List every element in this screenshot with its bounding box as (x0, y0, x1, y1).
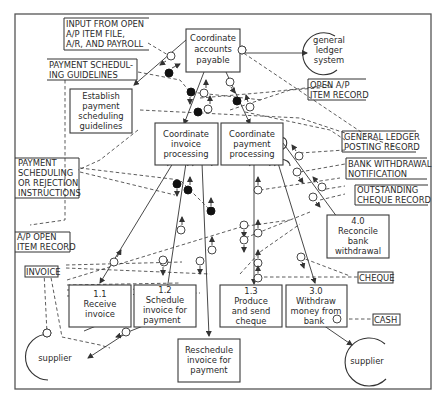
data-couple-icon (43, 329, 51, 337)
data-couple-icon (254, 186, 262, 194)
store-cash: CASH (373, 314, 400, 325)
svg-text:general: general (313, 35, 345, 45)
svg-text:ITEM RECORD: ITEM RECORD (310, 90, 369, 100)
svg-text:Reconcile: Reconcile (338, 226, 378, 236)
svg-text:scheduling: scheduling (78, 111, 123, 121)
svg-text:GENERAL LEDGER: GENERAL LEDGER (344, 132, 420, 142)
external-supplier-right: supplier (345, 338, 386, 386)
data-couple-icon (297, 253, 305, 261)
svg-text:invoice for: invoice for (187, 355, 232, 365)
svg-text:1.3: 1.3 (244, 286, 257, 296)
data-couple-icon (208, 246, 216, 254)
data-couple-icon (293, 168, 301, 176)
svg-text:invoice for: invoice for (143, 305, 188, 315)
data-couple-icon (254, 229, 262, 237)
svg-text:4.0: 4.0 (351, 216, 364, 226)
module-coordinate-invoice-processing: Coordinate invoice processing (155, 123, 218, 165)
module-1-2-schedule-invoice: 1.2 Schedule invoice for payment (134, 285, 196, 327)
svg-text:ledger: ledger (316, 45, 343, 55)
external-general-ledger-system: general ledger system (303, 33, 345, 75)
svg-text:accounts: accounts (194, 44, 232, 54)
svg-text:Coordinate: Coordinate (163, 129, 209, 139)
store-bank-withdrawal-notification: BANK WITHDRAWAL NOTIFICATION (346, 158, 432, 179)
svg-text:and send: and send (232, 306, 271, 316)
svg-text:payment: payment (143, 315, 181, 325)
svg-text:3.0: 3.0 (309, 286, 322, 296)
svg-text:invoice: invoice (85, 309, 115, 319)
control-flag-icon (173, 180, 181, 188)
svg-text:INVOICE: INVOICE (26, 267, 61, 277)
module-reschedule-invoice: Reschedule invoice for payment (178, 339, 240, 382)
data-couple-icon (159, 256, 167, 264)
svg-text:POSTING RECORD: POSTING RECORD (344, 142, 420, 152)
svg-text:Withdraw: Withdraw (296, 296, 336, 306)
module-1-3-produce-cheque: 1.3 Produce and send cheque (220, 285, 282, 327)
svg-text:CHEQUE: CHEQUE (359, 273, 394, 283)
data-couple-icon (246, 103, 254, 111)
svg-text:CHEQUE RECORD: CHEQUE RECORD (357, 195, 431, 205)
data-couple-icon (254, 259, 262, 267)
svg-text:Reschedule: Reschedule (185, 345, 233, 355)
module-establish-guidelines: Establish payment scheduling guidelines (70, 89, 132, 133)
svg-text:invoice: invoice (171, 139, 201, 149)
svg-text:supplier: supplier (350, 356, 384, 366)
data-couple-icon (167, 52, 175, 60)
svg-text:processing: processing (229, 149, 274, 159)
svg-text:Coordinate: Coordinate (190, 33, 236, 43)
svg-text:Produce: Produce (234, 296, 268, 306)
svg-text:money from: money from (291, 306, 342, 316)
svg-text:SCHEDULING: SCHEDULING (18, 168, 73, 178)
data-couple-icon (318, 183, 326, 191)
svg-text:guidelines: guidelines (80, 121, 123, 131)
svg-text:processing: processing (163, 149, 208, 159)
control-flag-icon (207, 207, 215, 215)
svg-text:1.1: 1.1 (93, 289, 106, 299)
store-general-ledger-posting: GENERAL LEDGER POSTING RECORD (342, 131, 420, 152)
svg-text:A/R, AND PAYROLL: A/R, AND PAYROLL (66, 39, 144, 49)
svg-text:system: system (314, 55, 344, 65)
data-couple-icon (196, 257, 204, 265)
svg-text:A/P OPEN: A/P OPEN (17, 232, 56, 242)
store-open-ap-item-record: OPEN A/P ITEM RECORD (308, 79, 369, 100)
svg-text:CASH: CASH (374, 315, 397, 325)
data-couple-icon (240, 236, 248, 244)
store-cheque: CHEQUE (358, 272, 394, 283)
data-couple-icon (254, 274, 262, 282)
svg-text:OR REJECTION: OR REJECTION (18, 178, 78, 188)
svg-text:ING GUIDELINES: ING GUIDELINES (49, 70, 118, 80)
data-couple-icon (122, 328, 130, 336)
control-flag-icon (233, 97, 241, 105)
store-payment-scheduling-guidelines: PAYMENT SCHEDUL- ING GUIDELINES (47, 59, 137, 80)
store-outstanding-cheque: OUTSTANDING CHEQUE RECORD (355, 185, 431, 205)
store-payment-rejection-instructions: PAYMENT SCHEDULING OR REJECTION INSTRUCT… (15, 158, 81, 198)
external-supplier-left: supplier (25, 334, 72, 380)
structure-chart: Coordinate accounts payable Establish pa… (0, 0, 445, 395)
svg-text:A/P ITEM FILE,: A/P ITEM FILE, (66, 29, 125, 39)
svg-text:supplier: supplier (38, 353, 72, 363)
store-input-open-ap: INPUT FROM OPEN A/P ITEM FILE, A/R, AND … (64, 18, 149, 50)
data-couple-icon (177, 226, 185, 234)
svg-text:OUTSTANDING: OUTSTANDING (357, 185, 418, 195)
svg-text:payment: payment (82, 101, 120, 111)
svg-text:bank: bank (348, 236, 369, 246)
svg-text:bank: bank (304, 316, 325, 326)
control-flag-icon (165, 69, 173, 77)
svg-text:ITEM RECORD: ITEM RECORD (17, 242, 76, 252)
store-invoice: INVOICE (25, 266, 61, 277)
svg-text:INSTRUCTIONS: INSTRUCTIONS (18, 188, 81, 198)
module-4-0-reconcile: 4.0 Reconcile bank withdrawal (327, 215, 389, 258)
data-couple-icon (226, 78, 234, 86)
module-1-1-receive-invoice: 1.1 Receive invoice (69, 285, 131, 327)
svg-text:BANK WITHDRAWAL: BANK WITHDRAWAL (348, 159, 432, 169)
data-couple-icon (200, 89, 208, 97)
svg-text:Coordinate: Coordinate (229, 129, 275, 139)
control-flag-icon (184, 186, 192, 194)
module-coordinate-payment-processing: Coordinate payment processing (221, 123, 283, 165)
data-couple-icon (238, 46, 246, 54)
svg-text:OPEN A/P: OPEN A/P (310, 80, 349, 90)
svg-text:1.2: 1.2 (158, 285, 171, 295)
svg-text:payment: payment (233, 139, 271, 149)
svg-text:INPUT FROM OPEN: INPUT FROM OPEN (66, 19, 144, 29)
svg-text:payment: payment (190, 365, 228, 375)
svg-text:withdrawal: withdrawal (335, 246, 381, 256)
